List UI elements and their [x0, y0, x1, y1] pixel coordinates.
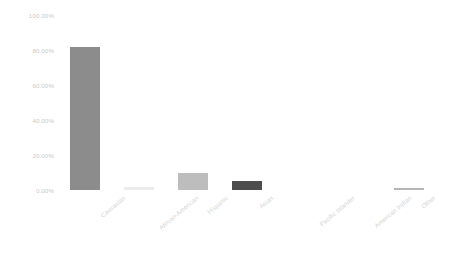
bar-slot [232, 15, 262, 190]
bar-slot [394, 15, 424, 190]
plot-area [62, 15, 440, 190]
bar-chart: 100.00% 80.00% 60.00% 40.00% 20.00% 0.00… [0, 0, 450, 257]
y-axis-tick-label: 20.00% [32, 152, 54, 159]
y-axis: 100.00% 80.00% 60.00% 40.00% 20.00% 0.00… [0, 0, 62, 190]
y-axis-tick-label: 100.00% [29, 12, 54, 19]
x-axis-label-african-american: African-American [157, 194, 199, 231]
bars-layer [62, 15, 440, 190]
x-axis-label-american-indian: American Indian [373, 194, 413, 229]
x-axis: Caucasian African-American Hispanic Asia… [62, 190, 440, 257]
bar-slot [124, 15, 154, 190]
y-axis-tick-label: 40.00% [32, 117, 54, 124]
bar-slot [286, 15, 316, 190]
x-axis-label-hispanic: Hispanic [206, 194, 229, 215]
bar-asian[interactable] [232, 181, 262, 190]
x-axis-label-pacific-islander: Pacific Islander [318, 194, 356, 227]
y-axis-tick-label: 80.00% [32, 47, 54, 54]
bar-caucasian[interactable] [70, 47, 100, 191]
x-axis-label-asian: Asian [258, 194, 275, 210]
bar-slot [340, 15, 370, 190]
bar-slot [178, 15, 208, 190]
y-axis-tick-label: 60.00% [32, 82, 54, 89]
y-axis-tick-label: 0.00% [36, 187, 54, 194]
bar-slot [70, 15, 100, 190]
bar-hispanic[interactable] [178, 173, 208, 190]
x-axis-label-caucasian: Caucasian [99, 194, 127, 219]
x-axis-label-other: Other [420, 194, 437, 210]
